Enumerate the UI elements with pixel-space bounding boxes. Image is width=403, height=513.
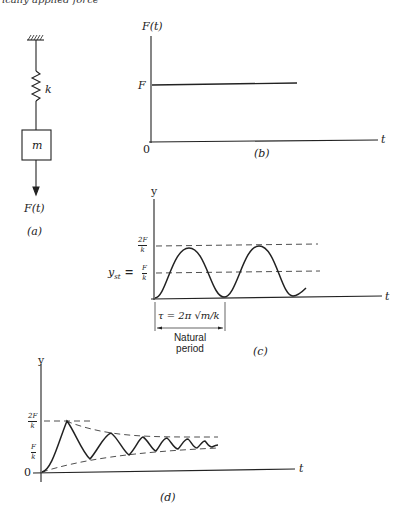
d-damped-curve xyxy=(42,421,218,472)
d-t-axis xyxy=(33,469,295,473)
mass-spring-diagram xyxy=(22,35,51,195)
mass-label: m xyxy=(32,140,42,151)
d-upper-envelope xyxy=(66,421,218,437)
ceiling-hatch-icon xyxy=(28,35,43,40)
caption-b: (b) xyxy=(254,148,270,159)
figure-canvas xyxy=(0,0,403,513)
c-yst-label: yst = xyxy=(108,267,134,281)
c-y-axis-label: y xyxy=(151,186,157,197)
natural-period-label: Natural period xyxy=(170,333,210,354)
b-level-label: F xyxy=(138,80,146,91)
d-fk-label: Fk xyxy=(31,444,36,461)
d-lower-envelope xyxy=(42,448,218,472)
c-fk-dashed-line xyxy=(156,271,320,273)
d-t-axis-label: t xyxy=(299,463,303,474)
force-arrow-head-icon xyxy=(33,187,39,195)
step-force-plot xyxy=(149,36,378,143)
caption-d: (d) xyxy=(160,492,176,503)
d-origin-label: 0 xyxy=(24,467,31,478)
b-origin-label: 0 xyxy=(143,144,150,155)
c-t-axis-label: t xyxy=(385,291,389,302)
damped-response-plot xyxy=(33,364,295,482)
c-fk-label: Fk xyxy=(142,265,147,282)
spring-icon xyxy=(32,71,40,101)
b-t-axis xyxy=(149,140,378,142)
c-2fk-dashed-line xyxy=(156,244,318,246)
c-t-axis xyxy=(151,296,382,299)
applied-force-label: F(t) xyxy=(24,203,45,214)
caption-c: (c) xyxy=(253,346,268,357)
b-t-axis-label: t xyxy=(381,134,385,145)
spring-constant-label: k xyxy=(45,84,52,95)
period-arrow-right-icon xyxy=(218,327,223,330)
step-force-line xyxy=(152,83,297,85)
caption-a: (a) xyxy=(27,226,42,237)
period-arrow-left-icon xyxy=(157,327,162,330)
d-y-axis-label: y xyxy=(38,355,44,366)
d-2fk-label: 2Fk xyxy=(28,413,37,430)
period-formula: τ = 2π √m/k xyxy=(158,311,220,321)
c-2fk-label: 2Fk xyxy=(138,237,147,254)
b-y-axis-label: F(t) xyxy=(142,21,163,32)
